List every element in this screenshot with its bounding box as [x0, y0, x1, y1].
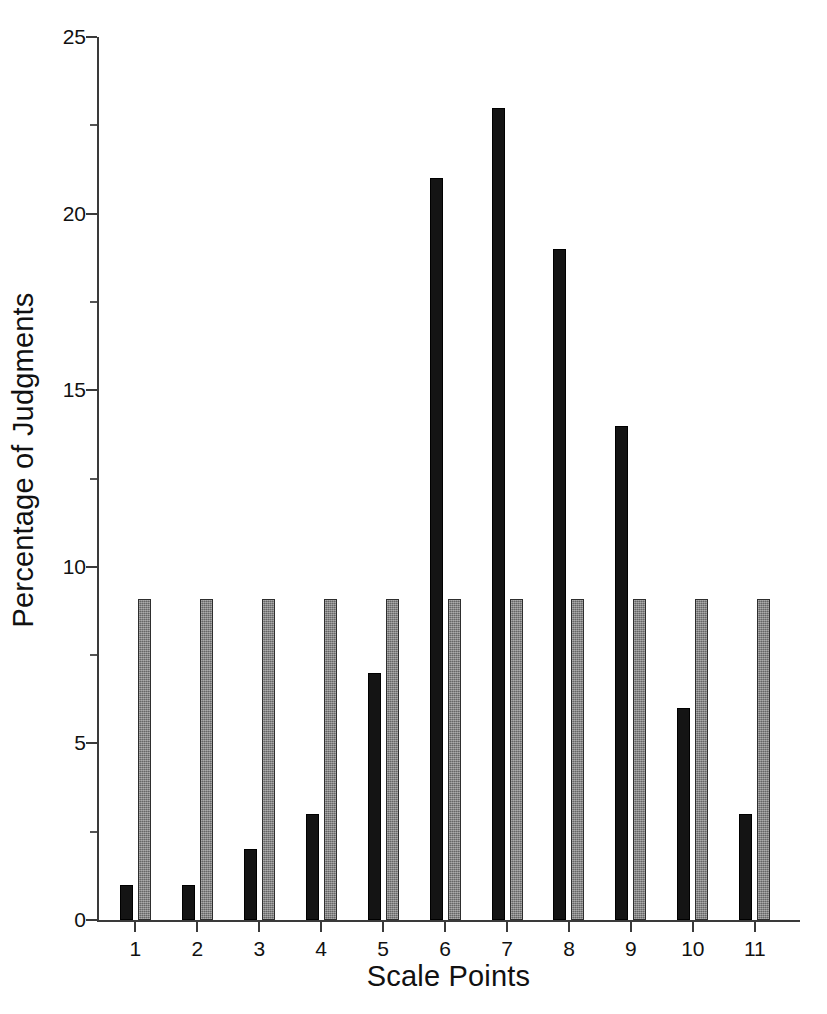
x-axis-tick — [568, 922, 570, 932]
bar-observed-6 — [430, 178, 443, 920]
x-axis-tick-label: 5 — [353, 937, 413, 961]
bar-observed-3 — [244, 849, 257, 920]
x-axis-tick — [134, 922, 136, 932]
plot-area: 1234567891011 — [97, 37, 800, 920]
y-axis-tick-label: 25 — [42, 25, 86, 49]
bar-observed-8 — [553, 249, 566, 920]
y-axis-tick — [86, 389, 97, 391]
bar-observed-2 — [182, 885, 195, 920]
bar-uniform-4 — [324, 599, 337, 920]
x-axis-tick — [754, 922, 756, 932]
x-axis-tick-label: 3 — [229, 937, 289, 961]
x-axis-tick — [382, 922, 384, 932]
y-axis-tick-label: 5 — [42, 731, 86, 755]
x-axis-tick — [196, 922, 198, 932]
x-axis-tick-label: 1 — [105, 937, 165, 961]
bar-uniform-11 — [757, 599, 770, 920]
bar-chart-figure: Percentage of Judgments 0510152025 12345… — [0, 0, 827, 1014]
bar-uniform-3 — [262, 599, 275, 920]
x-axis-tick-label: 6 — [415, 937, 475, 961]
y-axis-tick — [86, 213, 97, 215]
bar-observed-7 — [492, 108, 505, 920]
bar-uniform-2 — [200, 599, 213, 920]
bar-uniform-8 — [571, 599, 584, 920]
y-axis-tick-label: 20 — [42, 202, 86, 226]
y-axis-line — [97, 37, 99, 920]
x-axis-tick — [258, 922, 260, 932]
y-axis-minor-tick — [90, 831, 97, 833]
x-axis-tick — [692, 922, 694, 932]
x-axis-tick-label: 10 — [663, 937, 723, 961]
y-axis-tick — [86, 36, 97, 38]
y-axis-tick-labels: 0510152025 — [40, 0, 86, 1014]
y-axis-tick-label: 0 — [42, 908, 86, 932]
x-axis-line — [97, 920, 800, 922]
bar-observed-5 — [368, 673, 381, 920]
bar-observed-11 — [739, 814, 752, 920]
x-axis-tick-label: 4 — [291, 937, 351, 961]
x-axis-tick — [506, 922, 508, 932]
x-axis-tick — [320, 922, 322, 932]
y-axis-minor-tick — [90, 654, 97, 656]
bar-observed-4 — [306, 814, 319, 920]
x-axis-tick-label: 2 — [167, 937, 227, 961]
x-axis-tick — [630, 922, 632, 932]
y-axis-minor-tick — [90, 124, 97, 126]
y-axis-minor-tick — [90, 478, 97, 480]
y-axis-tick-label: 10 — [42, 555, 86, 579]
x-axis-tick-label: 9 — [601, 937, 661, 961]
y-axis-tick — [86, 742, 97, 744]
x-axis-title: Scale Points — [97, 960, 800, 993]
x-axis-tick-label: 11 — [725, 937, 785, 961]
y-axis-tick — [86, 919, 97, 921]
bar-uniform-6 — [448, 599, 461, 920]
bar-uniform-7 — [510, 599, 523, 920]
y-axis-tick — [86, 566, 97, 568]
bar-uniform-1 — [138, 599, 151, 920]
bar-observed-9 — [615, 426, 628, 920]
bar-observed-1 — [120, 885, 133, 920]
x-axis-tick — [444, 922, 446, 932]
y-axis-tick-label: 15 — [42, 378, 86, 402]
x-axis-tick-label: 8 — [539, 937, 599, 961]
bar-uniform-9 — [633, 599, 646, 920]
x-axis-tick-label: 7 — [477, 937, 537, 961]
bar-uniform-5 — [386, 599, 399, 920]
y-axis-minor-tick — [90, 301, 97, 303]
bar-uniform-10 — [695, 599, 708, 920]
bar-observed-10 — [677, 708, 690, 920]
